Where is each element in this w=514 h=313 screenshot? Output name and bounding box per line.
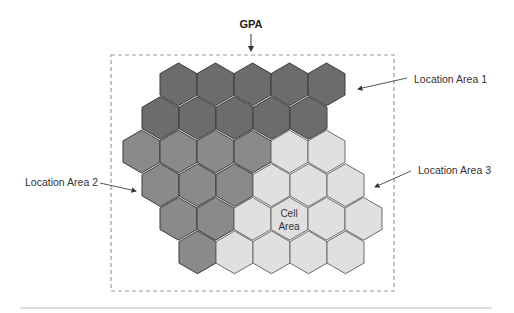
cell-area-label-line1: Cell	[280, 208, 297, 219]
location-area-1-label: Location Area 1	[414, 73, 487, 85]
location-area-diagram: GPA Location Area 1 Location Area 2 Loca…	[0, 0, 514, 313]
location-area-2-arrow-icon	[100, 183, 136, 191]
location-area-3-arrow-icon	[375, 171, 411, 187]
gpa-label: GPA	[239, 18, 262, 30]
location-area-3-label: Location Area 3	[418, 164, 491, 176]
cell-area-label-line2: Area	[278, 221, 300, 232]
location-area-2-label: Location Area 2	[25, 176, 98, 188]
hex-grid	[123, 63, 382, 274]
hex-cell-la2	[123, 130, 160, 173]
location-area-1-arrow-icon	[358, 78, 407, 89]
